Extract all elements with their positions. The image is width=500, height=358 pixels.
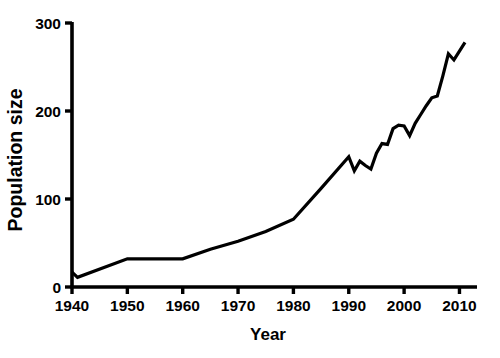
x-tick-label: 2010 bbox=[442, 297, 476, 314]
figure-container: 2.2 Population dataset 0100200300 194019… bbox=[0, 0, 500, 358]
x-tick-label: 1950 bbox=[110, 297, 144, 314]
y-axis-title: Population size bbox=[4, 88, 26, 231]
x-tick-label: 2000 bbox=[387, 297, 421, 314]
y-tick-label: 200 bbox=[35, 103, 61, 120]
y-tick-label: 0 bbox=[52, 279, 61, 296]
x-tick-label: 1970 bbox=[221, 297, 255, 314]
y-tick-label: 100 bbox=[35, 191, 61, 208]
x-tick-label: 1980 bbox=[276, 297, 310, 314]
x-tick-label: 1990 bbox=[332, 297, 366, 314]
x-axis-title: Year bbox=[250, 325, 286, 344]
line-chart: 0100200300 19401950196019701980199020002… bbox=[0, 0, 500, 358]
y-tick-label: 300 bbox=[35, 15, 61, 32]
x-tick-label: 1940 bbox=[55, 297, 89, 314]
x-tick-label: 1960 bbox=[165, 297, 199, 314]
